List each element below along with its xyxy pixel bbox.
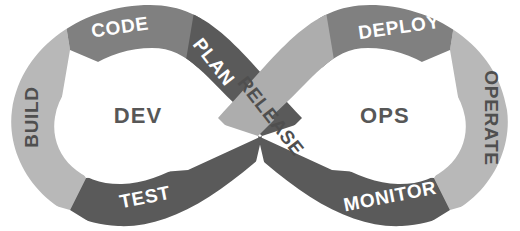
hub-label-dev: DEV: [114, 103, 163, 128]
hub-label-ops: OPS: [360, 103, 410, 128]
devops-infinity-diagram: DevOps Infinity Loop: [0, 0, 520, 231]
stage-label-operate: OPERATE: [481, 70, 502, 165]
stage-label-build: BUILD: [21, 86, 42, 148]
